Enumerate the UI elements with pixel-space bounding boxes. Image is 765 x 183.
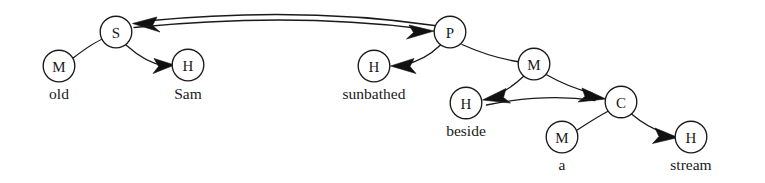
node-letter: H: [369, 59, 380, 75]
node-layer: M old S H Sam P H sunbathed: [43, 16, 711, 173]
arrowhead-c-h_stream: [653, 128, 679, 144]
node-m-beside[interactable]: M: [518, 48, 550, 80]
node-h-stream[interactable]: H stream: [670, 121, 711, 173]
arrowhead-s-h_sam: [153, 59, 175, 74]
node-h-sam[interactable]: H Sam: [172, 49, 204, 102]
arrowhead-p-h_sunbathed: [391, 59, 417, 74]
edge-p-m_beside: [462, 45, 521, 63]
edge-m_a-c: [577, 111, 609, 131]
node-letter: M: [52, 59, 65, 75]
node-p-top[interactable]: P: [434, 16, 466, 48]
node-letter: C: [616, 95, 626, 111]
node-word-label: old: [49, 85, 69, 102]
node-letter: H: [183, 58, 194, 74]
node-word-label: stream: [670, 156, 711, 173]
node-letter: M: [527, 57, 540, 73]
dependency-graph: M old S H Sam P H sunbathed: [0, 0, 765, 183]
edge-s-p-lower: [134, 20, 420, 29]
node-letter: H: [686, 130, 697, 146]
node-h-sunbathed[interactable]: H sunbathed: [343, 50, 406, 102]
node-word-label: sunbathed: [343, 85, 406, 102]
node-word-label: Sam: [174, 85, 202, 102]
node-letter: H: [461, 96, 472, 112]
node-letter: P: [446, 25, 454, 41]
node-letter: M: [555, 130, 568, 146]
arrowhead-p-s: [133, 17, 161, 32]
node-word-label: beside: [446, 122, 486, 139]
arrowhead-s-p: [407, 25, 435, 39]
diagram-canvas: M old S H Sam P H sunbathed: [0, 0, 765, 183]
node-word-label: a: [559, 156, 566, 173]
node-c[interactable]: C: [605, 86, 637, 118]
node-s-top[interactable]: S: [100, 16, 132, 48]
edge-m_old-s: [73, 38, 107, 59]
node-letter: S: [112, 25, 120, 41]
node-m-a[interactable]: M a: [546, 121, 578, 173]
node-h-beside[interactable]: H beside: [446, 87, 486, 139]
node-m-old[interactable]: M old: [43, 50, 75, 102]
